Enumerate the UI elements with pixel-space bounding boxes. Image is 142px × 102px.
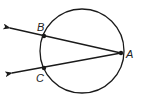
point-a (119, 51, 123, 55)
point-c (42, 66, 46, 70)
label-a: A (125, 48, 133, 60)
label-b: B (37, 21, 44, 33)
ray-ab (10, 28, 121, 53)
ray-ac (12, 53, 121, 73)
circle-secant-diagram: B A C (0, 0, 142, 102)
point-b (42, 34, 46, 38)
label-c: C (36, 72, 44, 84)
